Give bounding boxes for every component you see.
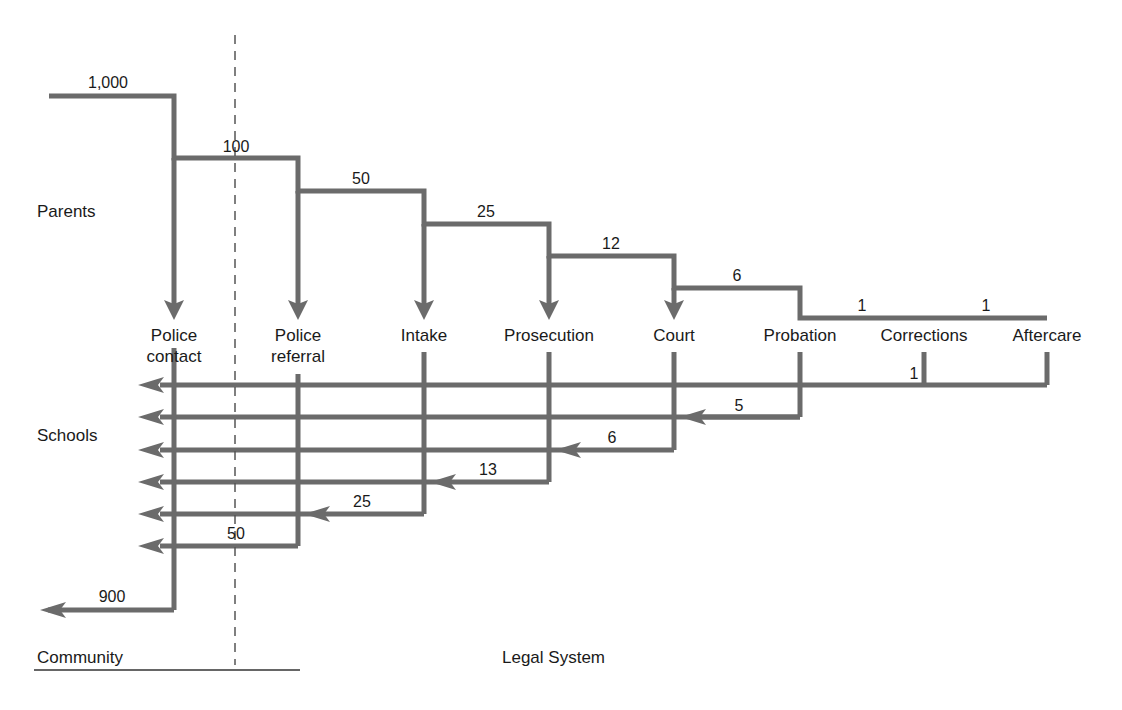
stage-label-line1: Police bbox=[271, 325, 325, 346]
stage-label-line1: Police bbox=[147, 325, 202, 346]
outflow-count-police-referral: 50 bbox=[227, 525, 245, 543]
inflow-count-1000: 1,000 bbox=[88, 74, 128, 92]
stage-label-line2: referral bbox=[271, 346, 325, 367]
source-schools-label: Schools bbox=[37, 425, 97, 446]
stage-police-contact: Policecontact bbox=[147, 325, 202, 367]
source-parents-label: Parents bbox=[37, 201, 96, 222]
stage-police-referral: Policereferral bbox=[271, 325, 325, 367]
stage-aftercare: Aftercare bbox=[1013, 325, 1082, 346]
inflow-count-6: 6 bbox=[733, 267, 742, 285]
stage-label-line2: contact bbox=[147, 346, 202, 367]
inflow-count-25: 25 bbox=[477, 203, 495, 221]
stage-intake: Intake bbox=[401, 325, 447, 346]
stage-court: Court bbox=[653, 325, 695, 346]
outflow-count-community: 900 bbox=[99, 588, 126, 606]
outflow-count-intake: 25 bbox=[353, 493, 371, 511]
outflow-count-corrections: 1 bbox=[910, 365, 919, 383]
inflow-count-50: 50 bbox=[352, 170, 370, 188]
stage-prosecution: Prosecution bbox=[504, 325, 594, 346]
region-legal-system-label: Legal System bbox=[502, 647, 605, 668]
outflow-count-probation: 5 bbox=[735, 397, 744, 415]
stage-corrections: Corrections bbox=[881, 325, 968, 346]
outflow-count-prosecution: 13 bbox=[479, 461, 497, 479]
inflow-count-1-corrections: 1 bbox=[858, 297, 867, 315]
inflow-count-100: 100 bbox=[223, 138, 250, 156]
outflow-count-court: 6 bbox=[608, 429, 617, 447]
inflow-count-12: 12 bbox=[602, 235, 620, 253]
region-community-label: Community bbox=[37, 647, 123, 668]
inflow-count-1-aftercare: 1 bbox=[982, 297, 991, 315]
stage-probation: Probation bbox=[764, 325, 837, 346]
